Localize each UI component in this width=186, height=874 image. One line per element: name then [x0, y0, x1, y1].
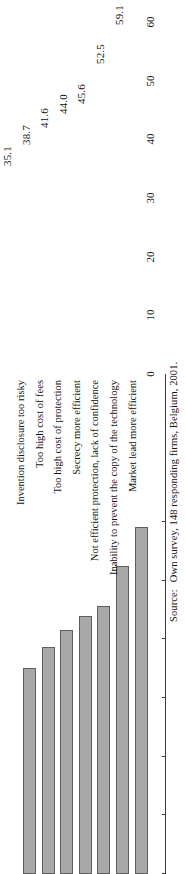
axis-tick-label: 20 [144, 251, 156, 262]
bar [60, 630, 73, 874]
category-label: Invention disclosure too risky [15, 380, 26, 505]
bar [23, 668, 36, 874]
bar [135, 527, 148, 874]
source-label: Source: [168, 589, 179, 622]
bar [97, 606, 110, 874]
bar-value-label: 35.1 [1, 146, 13, 166]
bar-value-label: 38.7 [20, 125, 32, 145]
category-label: Too high cost of fees [34, 380, 45, 468]
category-label: Too high cost of protection [52, 380, 63, 494]
axis-tick-label: 50 [144, 75, 156, 86]
category-label: Not efficient protection, lack of confid… [89, 380, 100, 561]
category-label: Inability to prevent the copy of the tec… [108, 380, 119, 575]
source-note: Source:Own survey, 148 responding firms,… [168, 362, 179, 622]
category-axis-line [165, 374, 166, 874]
axis-tick-label: 10 [144, 310, 156, 321]
axis-tick-label: 30 [144, 193, 156, 204]
bar-value-label: 44.0 [57, 94, 69, 114]
bar [116, 566, 129, 874]
axis-tick-label: 40 [144, 134, 156, 145]
bar-value-label: 52.5 [94, 44, 106, 64]
source-text: Own survey, 148 responding firms, Belgiu… [168, 362, 179, 583]
axis-tick-label: 60 [144, 17, 156, 28]
category-label: Market lead more efficient [127, 380, 138, 492]
bar-value-label: 59.1 [113, 5, 125, 25]
bar-value-label: 41.6 [38, 108, 50, 128]
axis-tick-label: 0 [144, 371, 156, 377]
bar [42, 647, 55, 874]
bar [79, 616, 92, 874]
category-label: Secrecy more efficient [71, 380, 82, 475]
bar-value-label: 45.6 [75, 84, 87, 104]
